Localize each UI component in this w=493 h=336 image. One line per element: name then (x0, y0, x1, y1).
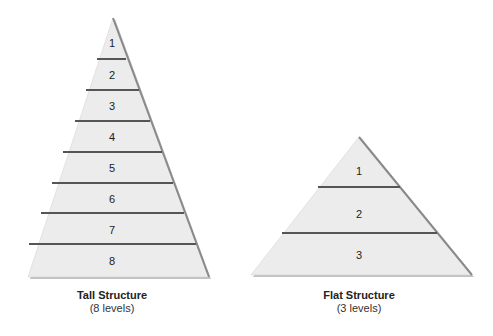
tall-level-7: 7 (109, 224, 115, 236)
tall-level-8: 8 (109, 255, 115, 267)
tall-level-2: 2 (109, 69, 115, 81)
flat-pyramid: 1 2 3 (251, 137, 474, 277)
tall-subtitle: (8 levels) (57, 302, 167, 315)
tall-caption: Tall Structure (8 levels) (57, 288, 167, 315)
tall-level-1: 1 (109, 37, 115, 49)
org-structure-diagram: 1 2 3 4 5 6 7 8 1 2 3 (0, 0, 493, 336)
flat-level-3: 3 (356, 249, 362, 261)
flat-level-2: 2 (356, 208, 362, 220)
flat-subtitle: (3 levels) (304, 302, 414, 315)
tall-level-4: 4 (109, 131, 115, 143)
flat-level-1: 1 (356, 165, 362, 177)
flat-title: Flat Structure (304, 288, 414, 302)
tall-pyramid: 1 2 3 4 5 6 7 8 (28, 18, 211, 279)
tall-level-5: 5 (109, 162, 115, 174)
tall-level-6: 6 (109, 193, 115, 205)
flat-caption: Flat Structure (3 levels) (304, 288, 414, 315)
tall-level-3: 3 (109, 100, 115, 112)
tall-title: Tall Structure (57, 288, 167, 302)
